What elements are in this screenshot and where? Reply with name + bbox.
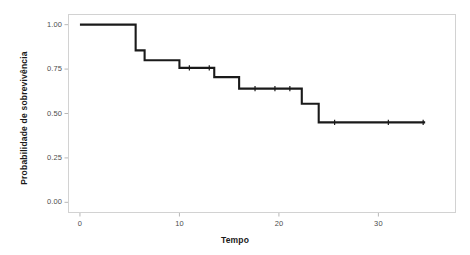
survival-curve-layer (0, 0, 470, 255)
survival-step-line (80, 25, 425, 123)
x-tick-label-3: 30 (363, 219, 393, 228)
y-axis-title: Probabilidade de sobrevivência (19, 18, 29, 218)
x-tick-label-0: 0 (65, 219, 95, 228)
survival-plot: 0.00 0.25 0.50 0.75 1.00 0 10 20 30 Temp… (0, 0, 470, 255)
y-tick-label-1: 0.25 (28, 153, 62, 162)
y-tick-label-3: 0.75 (28, 64, 62, 73)
y-tick-label-4: 1.00 (28, 20, 62, 29)
x-tick-label-1: 10 (164, 219, 194, 228)
y-tick-label-0: 0.00 (28, 197, 62, 206)
y-tick-label-2: 0.50 (28, 109, 62, 118)
x-tick-label-2: 20 (264, 219, 294, 228)
x-axis-title: Tempo (0, 235, 470, 245)
